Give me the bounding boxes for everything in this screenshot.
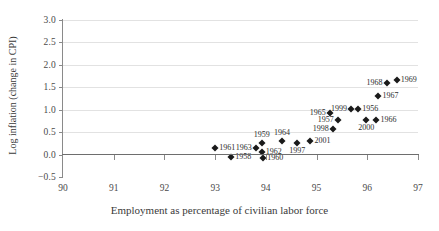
- x-tick-label: 95: [312, 183, 322, 193]
- y-tick-label: −0.5: [38, 172, 56, 182]
- data-point-label: 1998: [313, 125, 329, 133]
- x-axis-line: [62, 154, 419, 155]
- x-tick-mark: [164, 155, 165, 160]
- data-point-label: 1957: [318, 116, 334, 124]
- data-point-label: 1965: [310, 109, 326, 117]
- y-tick-label: 1.5: [44, 82, 56, 92]
- data-point-marker: [383, 79, 390, 86]
- y-tick-label: 0.0: [44, 150, 56, 160]
- data-point-marker: [212, 144, 219, 151]
- x-tick-label: 94: [261, 183, 271, 193]
- x-tick-label: 96: [363, 183, 373, 193]
- data-point-marker: [279, 138, 286, 145]
- gridline: [63, 87, 418, 88]
- x-tick-mark: [266, 155, 267, 160]
- data-point-marker: [334, 117, 341, 124]
- data-point-label: 1966: [380, 116, 396, 124]
- y-tick-label: 0.5: [44, 127, 56, 137]
- x-tick-mark: [114, 155, 115, 160]
- y-tick-label: 2.0: [44, 60, 56, 70]
- data-point-marker: [393, 77, 400, 84]
- data-point-label: 2000: [358, 124, 374, 132]
- x-tick-mark: [418, 155, 419, 160]
- data-point-label: 1963: [236, 144, 252, 152]
- data-point-marker: [329, 125, 336, 132]
- x-axis-title: Employment as percentage of civilian lab…: [0, 204, 439, 216]
- data-point-label: 1964: [274, 129, 290, 137]
- data-point-marker: [355, 105, 362, 112]
- y-axis-title: Log inflation (change in CPI): [7, 11, 18, 181]
- data-point-label: 1959: [254, 131, 270, 139]
- data-point-marker: [375, 93, 382, 100]
- y-tick-label: 2.5: [44, 37, 56, 47]
- y-tick-label: 1.0: [44, 105, 56, 115]
- data-point-marker: [258, 139, 265, 146]
- data-point-label: 1968: [367, 79, 383, 87]
- x-axis-tick-labels: 9091929394959697: [0, 183, 439, 197]
- data-point-label: 1969: [401, 76, 417, 84]
- x-tick-label: 91: [109, 183, 119, 193]
- x-tick-mark: [317, 155, 318, 160]
- data-point-label: 1961: [219, 144, 235, 152]
- data-point-label: 1967: [382, 92, 398, 100]
- gridline: [63, 42, 418, 43]
- data-point-label: 1960: [267, 154, 283, 162]
- gridline: [63, 20, 418, 21]
- y-tick-label: 3.0: [44, 15, 56, 25]
- data-point-label: 2001: [314, 137, 330, 145]
- scatter-chart-figure: 1958196119631959196219601964199720011998…: [0, 0, 439, 231]
- x-tick-label: 97: [413, 183, 423, 193]
- x-tick-mark: [367, 155, 368, 160]
- data-point-label: 1956: [362, 105, 378, 113]
- gridline: [63, 65, 418, 66]
- x-tick-mark: [215, 155, 216, 160]
- x-tick-label: 90: [58, 183, 68, 193]
- x-tick-label: 93: [210, 183, 220, 193]
- data-point-marker: [307, 138, 314, 145]
- x-tick-label: 92: [160, 183, 170, 193]
- data-point-label: 1999: [331, 105, 347, 113]
